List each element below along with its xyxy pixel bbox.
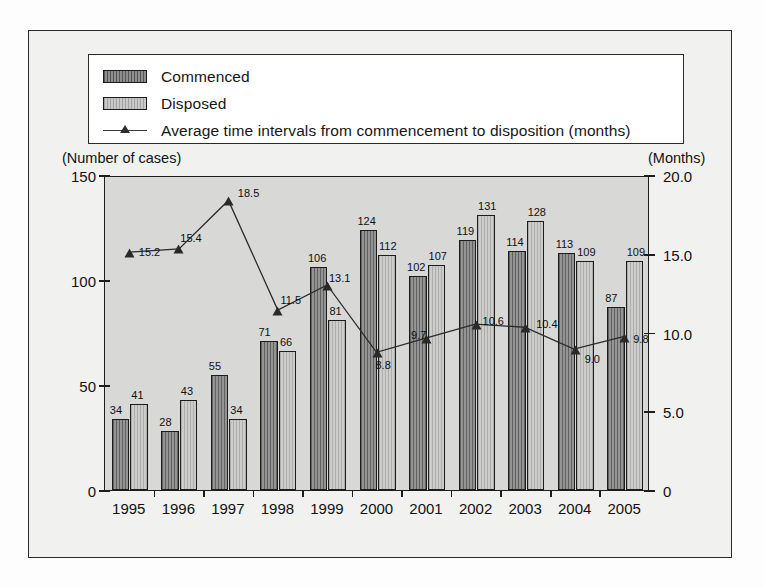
x-axis-tick-mark [550, 491, 552, 497]
line-label-2003: 10.4 [536, 319, 557, 330]
legend-item-disposed: Disposed [103, 90, 683, 117]
y-axis-left-tick-mark [99, 490, 110, 492]
x-axis-tick-mark [451, 491, 453, 497]
y-axis-left-tick-label: 0 [38, 483, 96, 500]
line-label-2000: 8.8 [376, 360, 391, 371]
legend-swatch-line-marker-icon [103, 124, 147, 137]
x-axis-tick-label-2003: 2003 [508, 500, 541, 517]
y-axis-right-tick-mark [644, 411, 655, 413]
line-label-1997: 18.5 [238, 188, 259, 199]
x-axis-tick-label-2001: 2001 [409, 500, 442, 517]
line-label-1995: 15.2 [139, 247, 160, 258]
y-axis-right-caption: (Months) [648, 150, 705, 166]
line-marker-1996 [174, 245, 184, 254]
x-axis-tick-label-1999: 1999 [310, 500, 343, 517]
line-marker-2005 [620, 333, 630, 342]
x-axis-tick-label-2002: 2002 [459, 500, 492, 517]
line-marker-2004 [570, 346, 580, 355]
plot-area: 3441284355347166106811241121021071191311… [104, 176, 649, 491]
x-axis-tick-label-2004: 2004 [558, 500, 591, 517]
legend-label-average-time: Average time intervals from commencement… [161, 122, 631, 140]
x-axis-tick-label-1995: 1995 [112, 500, 145, 517]
y-axis-left-tick-mark [99, 175, 110, 177]
x-axis-tick-mark [352, 491, 354, 497]
line-markers-layer: 15.215.418.511.513.18.89.710.610.49.09.8 [105, 177, 648, 490]
line-label-2005: 9.8 [633, 334, 648, 345]
y-axis-right-tick-mark [644, 254, 655, 256]
x-axis-tick-label-2005: 2005 [608, 500, 641, 517]
legend-swatch-disposed-icon [103, 97, 147, 110]
y-axis-right-tick-mark [644, 175, 655, 177]
y-axis-right-tick-label: 0 [663, 483, 723, 500]
y-axis-left-caption: (Number of cases) [62, 150, 181, 166]
line-label-2002: 10.6 [483, 316, 504, 327]
line-marker-1995 [124, 248, 134, 257]
line-label-1998: 11.5 [280, 295, 301, 306]
y-axis-left-tick-label: 150 [38, 168, 96, 185]
x-axis-tick-mark [203, 491, 205, 497]
line-marker-2003 [521, 324, 531, 333]
legend-item-average-time: Average time intervals from commencement… [103, 117, 683, 144]
legend-label-disposed: Disposed [161, 95, 226, 113]
x-axis-tick-label-1996: 1996 [162, 500, 195, 517]
y-axis-left-tick-label: 50 [38, 378, 96, 395]
x-axis-tick-mark [154, 491, 156, 497]
x-axis-tick-label-1997: 1997 [211, 500, 244, 517]
figure-root: Commenced Disposed Average time interval… [0, 0, 764, 587]
x-axis-tick-label-1998: 1998 [261, 500, 294, 517]
legend-item-commenced: Commenced [103, 63, 683, 90]
line-label-2004: 9.0 [585, 354, 600, 365]
x-axis-tick-mark [302, 491, 304, 497]
x-axis-tick-label-2000: 2000 [360, 500, 393, 517]
line-marker-1998 [273, 306, 283, 315]
line-marker-2000 [372, 349, 382, 358]
line-label-2001: 9.7 [411, 330, 426, 341]
y-axis-left-tick-mark [99, 280, 110, 282]
x-axis-tick-mark [500, 491, 502, 497]
line-label-1999: 13.1 [329, 273, 350, 284]
legend-swatch-commenced-icon [103, 70, 147, 83]
y-axis-right-tick-mark [644, 490, 655, 492]
x-axis-tick-mark [253, 491, 255, 497]
line-label-1996: 15.4 [180, 233, 201, 244]
x-axis-tick-mark [401, 491, 403, 497]
x-axis-tick-mark [599, 491, 601, 497]
y-axis-right-tick-label: 10.0 [663, 326, 723, 343]
y-axis-left-tick-mark [99, 385, 110, 387]
y-axis-right-tick-label: 5.0 [663, 404, 723, 421]
chart-legend: Commenced Disposed Average time interval… [88, 54, 684, 144]
y-axis-left-tick-label: 100 [38, 273, 96, 290]
y-axis-right-tick-mark [644, 333, 655, 335]
line-marker-1997 [223, 196, 233, 205]
line-marker-2002 [471, 321, 481, 330]
legend-label-commenced: Commenced [161, 68, 250, 86]
y-axis-right-tick-label: 20.0 [663, 168, 723, 185]
y-axis-right-tick-label: 15.0 [663, 247, 723, 264]
